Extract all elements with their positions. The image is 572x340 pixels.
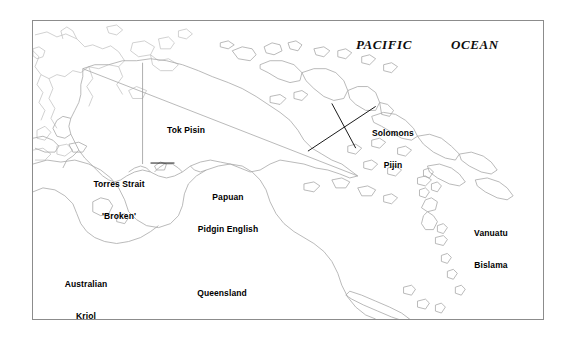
map-figure: PACIFIC OCEAN Tok Pisin Torres Strait 'B… bbox=[0, 0, 572, 340]
label-torres-strait-line1: Torres Strait bbox=[83, 179, 155, 190]
label-torres-strait-line2: 'Broken' bbox=[83, 211, 155, 222]
label-vanuatu-bislama: Vanuatu Bislama bbox=[463, 207, 519, 291]
label-solomons-line2: Pijin bbox=[362, 160, 424, 171]
label-australian-kriol-line1: Australian bbox=[55, 279, 117, 290]
label-vanuatu-line1: Vanuatu bbox=[463, 228, 519, 239]
map-frame-border: PACIFIC OCEAN Tok Pisin Torres Strait 'B… bbox=[32, 20, 544, 320]
label-papuan-pidgin-english: Papuan Pidgin English bbox=[180, 171, 276, 255]
label-vanuatu-line2: Bislama bbox=[463, 260, 519, 271]
label-tok-pisin: Tok Pisin bbox=[157, 104, 215, 157]
ocean-label-ocean: OCEAN bbox=[451, 37, 499, 53]
ocean-label-pacific: PACIFIC bbox=[356, 37, 412, 53]
coastline-new-caledonia bbox=[346, 285, 446, 319]
label-australian-kriol: Australian Kriol bbox=[55, 258, 117, 320]
label-queensland-line2: Canefields English bbox=[166, 320, 278, 321]
label-solomons-pijin: Solomons Pijin bbox=[362, 107, 424, 191]
label-solomons-line1: Solomons bbox=[362, 128, 424, 139]
coastline-vanuatu bbox=[419, 168, 465, 295]
label-australian-kriol-line2: Kriol bbox=[55, 311, 117, 321]
label-queensland-line1: Queensland bbox=[166, 288, 278, 299]
label-queensland-canefields-english: Queensland Canefields English bbox=[166, 267, 278, 320]
label-torres-strait-broken: Torres Strait 'Broken' bbox=[83, 158, 155, 242]
label-papuan-line2: Pidgin English bbox=[180, 224, 276, 235]
label-papuan-line1: Papuan bbox=[180, 192, 276, 203]
label-tok-pisin-line1: Tok Pisin bbox=[157, 125, 215, 136]
